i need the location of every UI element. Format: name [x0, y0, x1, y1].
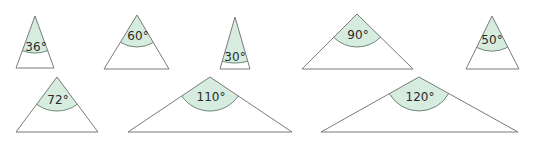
triangle-120-degrees: 120° — [321, 77, 518, 132]
angle-label: 90° — [347, 28, 368, 42]
triangle-90-degrees: 90° — [302, 14, 413, 69]
angle-label: 60° — [127, 29, 148, 43]
triangle-30-degrees: 30° — [220, 17, 250, 69]
angle-label: 30° — [224, 50, 245, 64]
angle-label: 72° — [47, 93, 68, 107]
triangle-angles-diagram: 36° 60° 30° 90° 50° 72° — [0, 0, 538, 143]
angle-label: 36° — [25, 40, 46, 54]
angle-label: 50° — [481, 33, 502, 47]
angle-label: 110° — [197, 90, 226, 104]
triangle-36-degrees: 36° — [16, 16, 54, 68]
triangle-72-degrees: 72° — [16, 77, 98, 132]
triangle-50-degrees: 50° — [466, 16, 519, 69]
angle-label: 120° — [406, 90, 435, 104]
triangle-60-degrees: 60° — [104, 15, 169, 69]
triangle-110-degrees: 110° — [128, 77, 292, 132]
